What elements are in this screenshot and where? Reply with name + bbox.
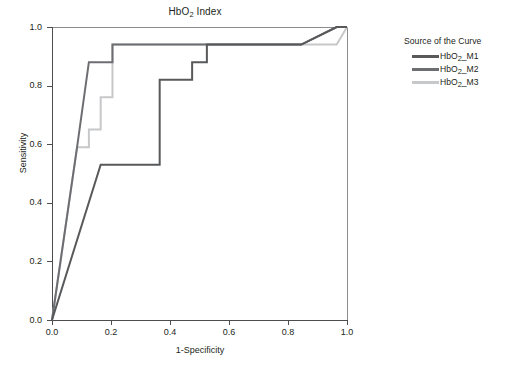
x-tick-label: 0.0: [32, 328, 72, 337]
x-tick-mark: [52, 320, 53, 325]
chart-title-suffix: Index: [194, 6, 222, 17]
plot-frame-top: [52, 27, 348, 28]
y-axis-line: [52, 27, 53, 321]
roc-chart-figure: HbO2 Index 0.00.20.40.60.81.0 0.00.20.40…: [0, 0, 513, 365]
x-tick-label: 0.2: [91, 328, 131, 337]
chart-title-prefix: HbO: [169, 6, 190, 17]
y-tick-label: 1.0: [14, 23, 42, 32]
x-axis-line: [52, 320, 348, 321]
y-tick-label: 0.8: [14, 81, 42, 90]
legend-swatch-icon: [412, 68, 439, 71]
roc-curve-hbo2_m1: [52, 27, 347, 320]
y-tick-label: 0.2: [14, 257, 42, 266]
legend-item-m3[interactable]: HbO2_M3: [404, 76, 512, 89]
legend-item-label: HbO2_M3: [440, 77, 479, 89]
x-tick-mark: [111, 320, 112, 325]
x-tick-label: 1.0: [327, 328, 367, 337]
legend-item-label: HbO2_M2: [440, 64, 479, 76]
x-tick-mark: [229, 320, 230, 325]
x-tick-mark: [347, 320, 348, 325]
legend-item-m1[interactable]: HbO2_M1: [404, 50, 512, 63]
legend-title: Source of the Curve: [404, 36, 512, 46]
x-tick-mark: [288, 320, 289, 325]
y-axis-title: Sensitivity: [18, 108, 28, 198]
legend-items: HbO2_M1HbO2_M2HbO2_M3: [404, 50, 512, 89]
y-tick-mark: [47, 86, 52, 87]
y-tick-label: 0.4: [14, 198, 42, 207]
legend-swatch-icon: [412, 55, 439, 58]
legend: Source of the Curve HbO2_M1HbO2_M2HbO2_M…: [404, 36, 512, 89]
y-tick-mark: [47, 27, 52, 28]
y-tick-mark: [47, 144, 52, 145]
x-tick-label: 0.6: [209, 328, 249, 337]
x-tick-mark: [170, 320, 171, 325]
legend-item-label: HbO2_M1: [440, 51, 479, 63]
roc-curve-hbo2_m3: [52, 27, 347, 320]
chart-title: HbO2 Index: [0, 6, 390, 19]
legend-swatch-icon: [412, 81, 439, 84]
x-axis-title: 1-Specificity: [52, 345, 348, 355]
y-tick-mark: [47, 261, 52, 262]
x-tick-label: 0.8: [268, 328, 308, 337]
y-tick-label: 0.0: [14, 316, 42, 325]
x-tick-label: 0.4: [150, 328, 190, 337]
roc-curve-hbo2_m2: [52, 27, 347, 320]
legend-item-m2[interactable]: HbO2_M2: [404, 63, 512, 76]
y-tick-mark: [47, 203, 52, 204]
plot-frame-right: [347, 27, 348, 321]
